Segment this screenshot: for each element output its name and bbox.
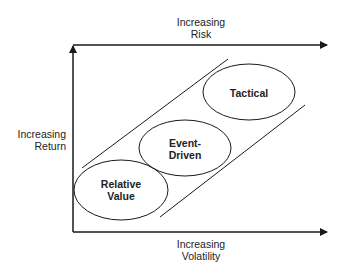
volatility-label-line2: Volatility [160, 250, 242, 262]
risk-axis-label: Increasing Risk [160, 16, 242, 40]
risk-label-line1: Increasing [160, 16, 242, 28]
tactical-label: Tactical [209, 87, 289, 99]
return-label-line1: Increasing [2, 128, 66, 140]
event-driven-label: Event- Driven [145, 137, 225, 161]
volatility-label-line1: Increasing [160, 238, 242, 250]
relative-value-line2: Value [81, 190, 161, 202]
return-label-line2: Return [2, 140, 66, 152]
event-driven-line2: Driven [145, 149, 225, 161]
risk-label-line2: Risk [160, 28, 242, 40]
tactical-line1: Tactical [209, 87, 289, 99]
event-driven-line1: Event- [145, 137, 225, 149]
relative-value-label: Relative Value [81, 178, 161, 202]
return-axis-label: Increasing Return [2, 128, 66, 152]
volatility-axis-label: Increasing Volatility [160, 238, 242, 262]
relative-value-line1: Relative [81, 178, 161, 190]
band-lower-line [160, 105, 305, 217]
